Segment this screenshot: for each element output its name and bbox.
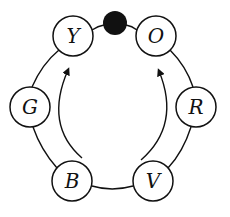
node-label-b: B xyxy=(64,169,80,193)
edge-b-g xyxy=(33,127,57,168)
edge-v-b xyxy=(92,186,133,189)
node-y: Y xyxy=(53,16,93,56)
edge-o-r xyxy=(170,50,193,87)
edge-r-v xyxy=(168,127,191,168)
node-label-v: V xyxy=(146,169,163,193)
node-g: G xyxy=(10,87,50,127)
color-cycle-diagram: Y O R V B G xyxy=(0,0,230,217)
arrow-b-to-y xyxy=(59,70,82,158)
node-label-y: Y xyxy=(66,24,81,48)
edge-g-y xyxy=(32,50,59,87)
inner-arrows xyxy=(59,70,167,160)
edge-y-dot xyxy=(92,25,104,30)
node-label-g: G xyxy=(22,95,38,119)
node-label-r: R xyxy=(187,95,203,119)
arrow-v-to-o xyxy=(141,71,167,160)
edge-dot-o xyxy=(126,25,137,30)
node-label-o: O xyxy=(148,24,164,48)
node-r: R xyxy=(176,87,216,127)
node-v: V xyxy=(133,161,173,201)
start-marker-dot xyxy=(103,11,127,35)
node-o: O xyxy=(136,16,176,56)
node-b: B xyxy=(52,161,92,201)
